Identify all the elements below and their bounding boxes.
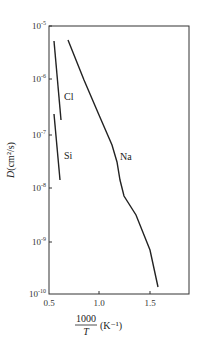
svg-text:T: T bbox=[83, 326, 90, 337]
x-tick-label: 0.5 bbox=[43, 298, 55, 308]
series-si-line bbox=[54, 114, 60, 180]
series-label-cl: Cl bbox=[64, 91, 74, 102]
y-tick-label: 10-6 bbox=[32, 73, 46, 84]
series-na-line bbox=[68, 40, 158, 287]
series-label-na: Na bbox=[120, 151, 132, 162]
y-axis-label: D(cm²/s) bbox=[5, 142, 17, 179]
x-tick-label: 1.0 bbox=[93, 298, 105, 308]
svg-text:(K⁻¹): (K⁻¹) bbox=[100, 320, 122, 332]
series-label-si: Si bbox=[64, 150, 73, 161]
x-axis-label: 1000 T (K⁻¹) bbox=[75, 313, 122, 337]
svg-text:D(cm²/s): D(cm²/s) bbox=[5, 142, 17, 179]
chart: 10-5 10-6 10-7 10-8 10-9 10-10 0.5 1.0 1… bbox=[0, 0, 200, 351]
y-tick-label: 10-9 bbox=[32, 236, 46, 247]
svg-text:1000: 1000 bbox=[76, 313, 96, 324]
y-tick-label: 10-5 bbox=[32, 20, 46, 31]
y-tick-label: 10-7 bbox=[32, 129, 46, 140]
x-tick-label: 1.5 bbox=[144, 298, 156, 308]
series-cl-line bbox=[54, 41, 61, 120]
y-tick-label: 10-8 bbox=[32, 182, 46, 193]
